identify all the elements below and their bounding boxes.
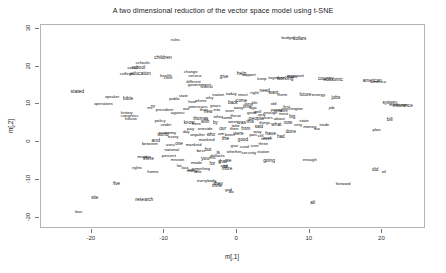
data-point-label: dollars xyxy=(293,37,307,42)
data-point-label: with xyxy=(201,120,209,125)
data-point-label: every xyxy=(168,135,179,139)
data-point-label: good xyxy=(238,138,248,143)
data-point-label: job xyxy=(329,106,335,110)
data-point-label: bill xyxy=(387,118,393,123)
y-tick-mark xyxy=(35,103,39,104)
data-point-label: care xyxy=(164,76,173,80)
data-point-label: federal xyxy=(200,85,212,89)
data-point-label: where xyxy=(195,98,206,102)
data-point-label: rules xyxy=(171,38,180,42)
data-point-label: used xyxy=(240,145,249,149)
x-tick-label: 0 xyxy=(234,235,237,241)
y-tick-label: 20 xyxy=(25,62,31,69)
data-point-label: did xyxy=(372,168,378,173)
data-point-label: mankind xyxy=(186,143,202,147)
data-point-label: station xyxy=(257,150,269,154)
data-point-label: going xyxy=(263,159,275,164)
data-point-label: america xyxy=(370,79,386,83)
data-point-label: state xyxy=(179,94,188,98)
data-point-label: keep xyxy=(257,77,266,81)
data-point-label: operations xyxy=(94,102,113,106)
data-point-label: about xyxy=(274,117,285,121)
data-point-label: national xyxy=(164,148,179,152)
y-tick-mark xyxy=(35,141,39,142)
data-point-label: by xyxy=(213,121,218,126)
data-point-label: country xyxy=(318,77,334,82)
data-point-label: big xyxy=(289,115,295,120)
data-point-label: other xyxy=(213,115,223,119)
data-point-label: support xyxy=(242,73,256,77)
y-tick-label: -10 xyxy=(25,175,31,184)
data-point-label: best xyxy=(197,149,205,153)
x-tick-mark xyxy=(236,229,237,233)
data-point-label: bus xyxy=(75,210,82,214)
x-tick-mark xyxy=(381,229,382,233)
data-point-label: ali xyxy=(310,201,315,206)
data-point-label: home xyxy=(147,169,158,173)
data-point-label: trade xyxy=(320,123,330,127)
data-point-label: well xyxy=(254,110,262,114)
data-point-label: little xyxy=(194,170,201,174)
data-point-label: forward xyxy=(336,182,351,186)
data-point-label: done xyxy=(286,130,296,135)
data-point-label: give xyxy=(230,144,238,148)
data-point-label: ms xyxy=(147,106,152,110)
data-point-label: money xyxy=(303,125,316,129)
data-point-label: do xyxy=(229,190,234,194)
x-tick-mark xyxy=(309,229,310,233)
data-point-label: old xyxy=(271,102,277,106)
data-point-label: between xyxy=(142,142,158,146)
data-point-label: rights xyxy=(132,166,142,170)
data-point-label: right xyxy=(250,91,259,95)
data-point-label: the xyxy=(222,136,229,141)
data-point-label: today xyxy=(226,92,237,96)
y-axis-label: m[,2] xyxy=(7,119,14,133)
data-point-label: for xyxy=(210,162,216,167)
data-point-label: now xyxy=(284,121,292,126)
data-point-label: bible xyxy=(123,97,133,102)
data-point-label: first xyxy=(283,104,290,108)
data-point-label: how xyxy=(188,100,196,104)
x-tick-label: -20 xyxy=(87,235,96,241)
data-point-label: social xyxy=(127,66,138,70)
data-point-label: five xyxy=(113,181,120,186)
data-point-label: this xyxy=(209,156,216,160)
data-point-label: what xyxy=(271,122,281,127)
data-point-label: state xyxy=(299,119,309,123)
data-point-label: oil xyxy=(382,169,386,173)
data-point-label: children xyxy=(154,54,172,59)
y-tick-label: -20 xyxy=(25,212,31,221)
y-tick-label: 10 xyxy=(25,100,31,107)
x-tick-mark xyxy=(91,229,92,233)
plot-panel: rulesbudgetdollarschildrenschoolsschools… xyxy=(40,24,425,228)
data-point-label: education xyxy=(130,72,151,77)
data-point-label: service xyxy=(188,74,201,78)
page-title: A two dimensional reduction of the vecto… xyxy=(0,6,446,15)
x-axis-label: m[,1] xyxy=(225,253,239,260)
data-point-label: security xyxy=(241,150,256,154)
data-point-label: but xyxy=(205,148,211,153)
data-point-label: against xyxy=(171,111,185,115)
y-tick-mark xyxy=(35,217,39,218)
data-point-label: under xyxy=(161,123,172,127)
data-point-label: you xyxy=(201,157,209,162)
data-point-label: way xyxy=(254,130,262,134)
y-tick-label: 0 xyxy=(25,139,31,142)
data-point-label: change xyxy=(184,70,198,74)
data-point-label: sure xyxy=(250,144,258,148)
data-point-label: stated xyxy=(71,88,85,93)
data-point-label: into xyxy=(213,108,220,112)
data-point-label: whether xyxy=(227,150,242,154)
data-point-label: maybe xyxy=(138,155,151,159)
data-point-label: important xyxy=(287,74,304,78)
data-point-label: were xyxy=(234,132,244,137)
tsne-scatter-figure: A two dimensional reduction of the vecto… xyxy=(0,0,446,273)
data-point-label: future xyxy=(300,93,312,98)
data-point-label: three xyxy=(258,142,268,146)
y-tick-mark xyxy=(35,179,39,180)
data-point-label: very xyxy=(294,123,302,127)
data-point-label: congress xyxy=(121,114,139,118)
data-point-label: take xyxy=(232,124,240,128)
data-point-label: medicare xyxy=(389,103,407,107)
x-tick-label: 10 xyxy=(305,235,312,241)
